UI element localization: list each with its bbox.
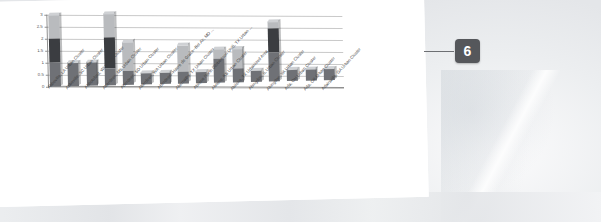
y-axis-tick	[44, 39, 47, 40]
y-axis-tick	[44, 15, 47, 16]
y-tick-label: 0.5	[38, 73, 44, 78]
x-axis-labels: Abbeville, LA Urban ClusterAbbeville, SC…	[20, 79, 383, 202]
bar-segment	[48, 14, 60, 38]
y-tick-label: 1	[41, 61, 44, 66]
y-tick-label: 1.5	[37, 49, 43, 54]
callout-annotation: 6	[424, 39, 484, 65]
y-tick-label: 2.5	[36, 25, 42, 30]
y-axis-tick	[45, 75, 48, 76]
bar-segment	[103, 13, 115, 37]
y-axis-tick	[44, 27, 47, 28]
y-axis-tick	[45, 51, 48, 52]
y-axis-tick	[45, 63, 48, 64]
y-axis-labels: 00.511.522.53	[18, 11, 46, 88]
y-tick-label: 2	[40, 37, 43, 42]
bar-segment	[49, 38, 61, 62]
y-tick-label: 3	[40, 13, 43, 18]
slide-panel: 00.511.522.53 Abbeville, LA Urban Cluste…	[0, 0, 429, 207]
step-number-badge[interactable]: 6	[455, 39, 480, 63]
leader-line	[424, 51, 454, 52]
bar-segment	[268, 29, 280, 53]
